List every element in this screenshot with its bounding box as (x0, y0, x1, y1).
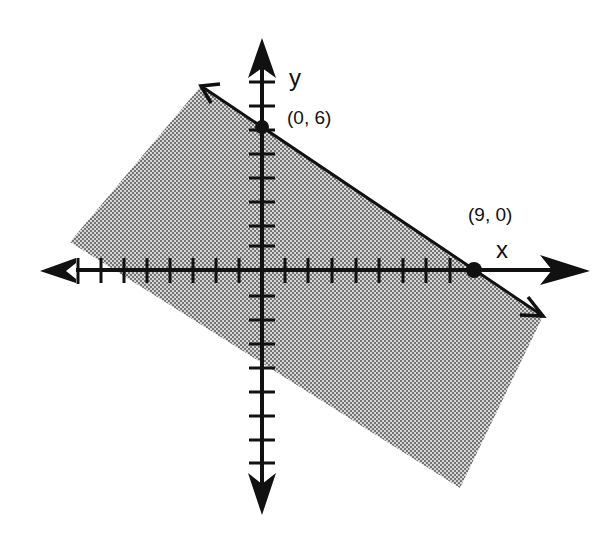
shaded-region (70, 86, 543, 488)
point-label-y-intercept: (0, 6) (287, 107, 331, 129)
point-x-intercept (466, 262, 482, 278)
y-axis-label: y (289, 64, 301, 92)
point-label-x-intercept: (9, 0) (468, 204, 512, 226)
x-axis-label: x (496, 236, 508, 264)
point-y-intercept (255, 120, 269, 134)
